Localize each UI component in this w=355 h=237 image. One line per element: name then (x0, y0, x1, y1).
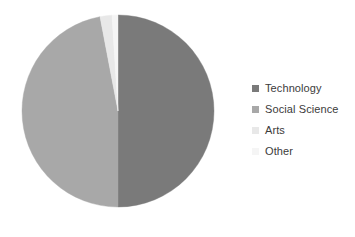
legend-item-other[interactable]: Other (252, 141, 352, 162)
legend-label-arts: Arts (265, 125, 285, 136)
legend-swatch-arts (252, 127, 259, 134)
pie-chart-figure: Technology Social Science Arts Other (0, 0, 355, 237)
legend-item-social-science[interactable]: Social Science (252, 99, 352, 120)
pie-slice-technology[interactable] (118, 15, 214, 207)
chart-legend: Technology Social Science Arts Other (252, 78, 352, 162)
legend-label-social-science: Social Science (265, 104, 339, 115)
legend-label-technology: Technology (265, 83, 322, 94)
pie-slice-social-science[interactable] (22, 17, 118, 207)
pie-chart-svg (0, 0, 240, 237)
legend-item-arts[interactable]: Arts (252, 120, 352, 141)
pie-slice-group (22, 15, 214, 207)
legend-swatch-other (252, 148, 259, 155)
legend-label-other: Other (265, 146, 293, 157)
legend-swatch-social-science (252, 106, 259, 113)
legend-swatch-technology (252, 85, 259, 92)
legend-item-technology[interactable]: Technology (252, 78, 352, 99)
pie-plot-area (0, 0, 240, 237)
